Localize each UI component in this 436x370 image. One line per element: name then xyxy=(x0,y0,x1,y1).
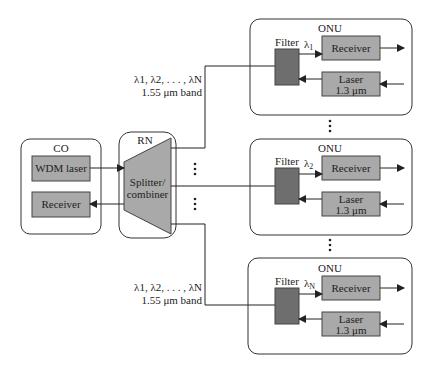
onu-2-filter xyxy=(275,168,299,204)
onu-n-lambda-label: λN xyxy=(304,277,315,293)
onu-2-lambda-label: λ2 xyxy=(304,157,313,173)
band-label-top-wavelengths: λ1, λ2, . . . , λN xyxy=(120,73,202,85)
onu-n-laser-label-2: 1.3 μm xyxy=(322,324,380,336)
onu-2-filter-label: Filter xyxy=(272,155,302,167)
band-label-bottom-band: 1.55 μm band xyxy=(120,294,202,306)
onu-1-filter xyxy=(275,49,299,85)
onu-1-lambda-label: λ1 xyxy=(304,38,313,54)
onu-n-filter-label: Filter xyxy=(272,275,302,287)
onu-1-title: ONU xyxy=(310,22,350,34)
onu-1-receiver-label: Receiver xyxy=(322,42,380,54)
onu-n-title: ONU xyxy=(310,262,350,274)
onu-2-laser-label-2: 1.3 μm xyxy=(322,204,380,216)
onu-1-filter-label: Filter xyxy=(272,36,302,48)
co-title: CO xyxy=(21,142,101,154)
co-receiver-label: Receiver xyxy=(32,198,90,210)
band-label-top-band: 1.55 μm band xyxy=(120,86,202,98)
rn-title: RN xyxy=(130,134,160,146)
onu-1-laser-label-2: 1.3 μm xyxy=(322,84,380,96)
band-label-bottom-wavelengths: λ1, λ2, . . . , λN xyxy=(120,281,202,293)
co-wdm-laser-label: WDM laser xyxy=(32,162,90,174)
onu-n-receiver-label: Receiver xyxy=(322,282,380,294)
onu-2-receiver-label: Receiver xyxy=(322,162,380,174)
splitter-label-1: Splitter/ xyxy=(124,176,171,188)
onu-n-filter xyxy=(275,288,299,324)
splitter-label-2: combiner xyxy=(124,188,171,200)
onu-2-title: ONU xyxy=(310,142,350,154)
